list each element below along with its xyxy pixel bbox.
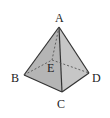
label-d: D — [92, 71, 101, 85]
label-c: C — [57, 97, 65, 111]
face-abc — [24, 27, 62, 92]
pyramid-diagram: A B C D E — [0, 0, 110, 118]
face-acd — [59, 27, 89, 92]
label-e: E — [47, 61, 54, 75]
label-a: A — [55, 11, 64, 25]
label-b: B — [11, 71, 19, 85]
